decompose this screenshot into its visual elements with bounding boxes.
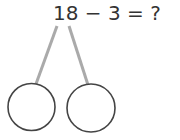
right-branch-line [69, 26, 88, 85]
left-branch-line [36, 26, 57, 84]
number-bond-diagram [0, 0, 180, 140]
right-part-circle[interactable] [67, 84, 115, 132]
left-part-circle[interactable] [8, 84, 55, 131]
